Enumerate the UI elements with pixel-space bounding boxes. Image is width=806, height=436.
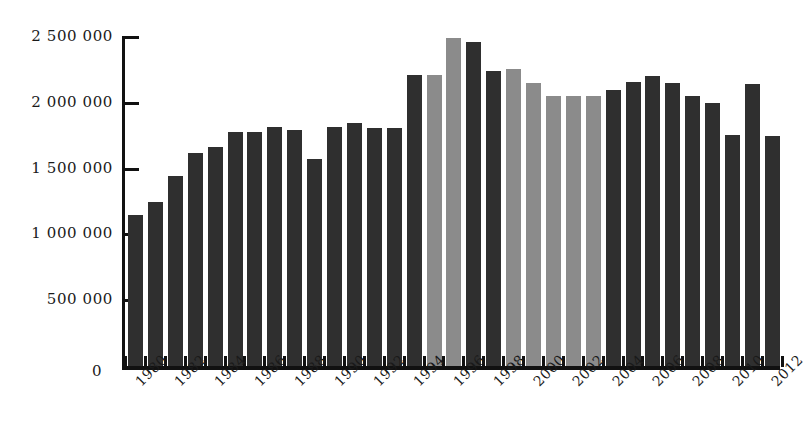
bar-2004 xyxy=(606,90,621,366)
y-axis-zero-label: 0 xyxy=(92,362,102,380)
bar-1980 xyxy=(128,215,143,366)
y-axis-tick-label: 500 000 xyxy=(47,290,113,308)
bar-1995 xyxy=(427,75,442,366)
bar-2001 xyxy=(546,96,561,366)
y-axis-tick-label: 2 000 000 xyxy=(31,93,113,111)
bar-2012 xyxy=(765,136,780,366)
bar-1989 xyxy=(307,159,322,366)
y-axis-tick xyxy=(122,36,139,39)
x-axis-tick xyxy=(124,356,127,367)
bar-1991 xyxy=(347,123,362,366)
bar-2000 xyxy=(526,83,541,366)
bar-2005 xyxy=(626,82,641,366)
bar-1999 xyxy=(506,69,521,366)
y-axis-tick xyxy=(122,168,139,171)
bar-2007 xyxy=(665,83,680,366)
y-axis-tick-label: 1 500 000 xyxy=(31,159,113,177)
bar-2002 xyxy=(566,96,581,366)
bar-2011 xyxy=(745,84,760,366)
bar-1986 xyxy=(247,132,262,366)
bar-1981 xyxy=(148,202,163,367)
bar-1996 xyxy=(446,38,461,366)
bar-1992 xyxy=(367,128,382,366)
bar-2003 xyxy=(586,96,601,366)
bar-1983 xyxy=(188,153,203,366)
bar-2010 xyxy=(725,135,740,366)
bar-1997 xyxy=(466,42,481,366)
bar-2006 xyxy=(645,76,660,366)
bar-1993 xyxy=(387,128,402,366)
bar-2008 xyxy=(685,96,700,366)
y-axis-line xyxy=(122,37,125,367)
bar-1984 xyxy=(208,147,223,366)
bar-1988 xyxy=(287,130,302,366)
bar-1998 xyxy=(486,71,501,366)
bar-1994 xyxy=(407,75,422,366)
y-axis-tick-label: 1 000 000 xyxy=(31,224,113,242)
bar-2009 xyxy=(705,103,720,366)
bar-1990 xyxy=(327,127,342,366)
y-axis-tick xyxy=(122,102,139,105)
y-axis-tick-label: 2 500 000 xyxy=(31,27,113,45)
bar-1982 xyxy=(168,176,183,366)
bar-1987 xyxy=(267,127,282,366)
bar-1985 xyxy=(228,132,243,366)
